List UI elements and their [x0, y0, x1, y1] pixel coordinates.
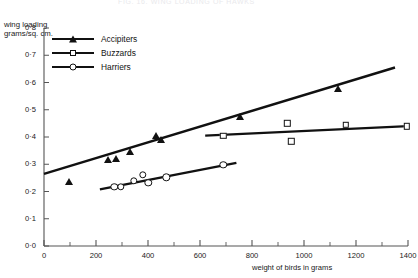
y-tick-label: 0·6: [10, 78, 36, 87]
open-square-icon: [70, 50, 76, 56]
data-point-harriers: [117, 183, 125, 191]
data-point-buzzards: [403, 123, 410, 130]
data-point-accipiters: [126, 148, 134, 155]
chart-legend: Accipiters Buzzards Harriers: [52, 32, 172, 74]
y-tick-label: 0·4: [10, 132, 36, 141]
x-tick-label: 200: [81, 251, 111, 260]
y-tick-label: 0·2: [10, 187, 36, 196]
data-point-harriers: [130, 177, 138, 185]
legend-label-harriers: Harriers: [101, 62, 131, 72]
data-point-accipiters: [104, 156, 112, 163]
data-point-buzzards: [284, 120, 291, 127]
data-point-harriers: [139, 171, 147, 179]
y-tick-label: 0·5: [10, 105, 36, 114]
legend-label-buzzards: Buzzards: [101, 48, 136, 58]
legend-item-buzzards: Buzzards: [52, 46, 172, 59]
data-point-accipiters: [112, 155, 120, 162]
trend-lines: [44, 68, 408, 190]
data-point-harriers: [162, 173, 170, 181]
data-point-accipiters: [65, 178, 73, 185]
legend-item-harriers: Harriers: [52, 60, 172, 73]
y-tick-label: 0·8: [10, 23, 36, 32]
x-tick-label: 0: [29, 251, 59, 260]
data-point-harriers: [144, 179, 152, 187]
wing-loading-figure: FIG. 16. WING LOADING OF HAWKS wing load…: [0, 0, 418, 278]
y-tick-label: 0·7: [10, 50, 36, 59]
data-point-buzzards: [342, 122, 349, 129]
data-point-accipiters: [236, 113, 244, 120]
legend-label-accipiters: Accipiters: [101, 34, 137, 44]
y-tick-label: 0·1: [10, 214, 36, 223]
legend-item-accipiters: Accipiters: [52, 32, 172, 45]
open-circle-icon: [70, 63, 77, 70]
data-point-harriers: [220, 161, 228, 169]
data-point-buzzards: [288, 138, 295, 145]
legend-swatch-accipiters: [52, 33, 94, 44]
legend-swatch-buzzards: [52, 47, 94, 58]
data-point-buzzards: [220, 132, 227, 139]
filled-triangle-icon: [69, 35, 77, 42]
data-point-accipiters: [157, 136, 165, 143]
x-tick-label: 400: [133, 251, 163, 260]
x-tick-label: 800: [237, 251, 267, 260]
x-tick-label: 1200: [341, 251, 371, 260]
x-tick-label: 1400: [393, 251, 418, 260]
data-point-accipiters: [334, 85, 342, 92]
x-tick-label: 1000: [289, 251, 319, 260]
legend-swatch-harriers: [52, 61, 94, 72]
y-tick-label: 0·0: [10, 241, 36, 250]
x-tick-label: 600: [185, 251, 215, 260]
y-tick-label: 0·3: [10, 159, 36, 168]
